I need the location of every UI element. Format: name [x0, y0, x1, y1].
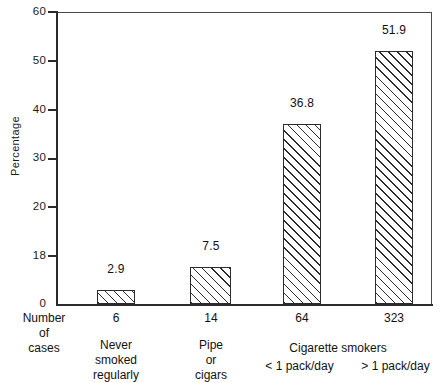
case-count-4: 323	[364, 311, 424, 325]
y-tick-label-30: 30	[0, 151, 46, 163]
number-of-cases-line-2: of	[4, 326, 84, 341]
y-tick-label-20: 20	[0, 200, 46, 212]
y-tick-label-50: 50	[0, 54, 46, 66]
bar-more-than-1-pack	[375, 51, 413, 304]
x-axis-line	[56, 304, 433, 306]
category-label-1-line-3: regularly	[76, 368, 156, 383]
category-label-1-line-1: Never	[76, 338, 156, 353]
y-tick-label-60: 60	[0, 5, 46, 17]
y-tick-label-10: 18	[0, 249, 46, 261]
case-count-3: 64	[272, 311, 332, 325]
bar-value-label-3: 36.8	[272, 96, 332, 110]
number-of-cases-line-3: cases	[4, 341, 84, 356]
bar-never-smoked	[97, 290, 135, 304]
y-tick-label-0: 0	[0, 297, 46, 309]
group-label-cigarette-smokers: Cigarette smokers	[248, 341, 428, 355]
category-label-never-smoked: Never smoked regularly	[76, 338, 156, 383]
category-label-pipe-or-cigars: Pipe or cigars	[171, 338, 251, 383]
category-label-2-line-1: Pipe	[171, 338, 251, 353]
bar-less-than-1-pack	[283, 124, 321, 304]
bar-pipe-or-cigars	[190, 267, 231, 304]
y-axis-line	[56, 11, 58, 306]
category-label-2-line-3: cigars	[171, 368, 251, 383]
case-count-1: 6	[86, 311, 146, 325]
category-label-1-line-2: smoked	[76, 353, 156, 368]
bar-value-label-1: 2.9	[86, 262, 146, 276]
bar-value-label-4: 51.9	[364, 23, 424, 37]
case-count-2: 14	[181, 311, 241, 325]
number-of-cases-line-1: Number	[4, 311, 84, 326]
bar-value-label-2: 7.5	[181, 239, 241, 253]
category-label-2-line-2: or	[171, 353, 251, 368]
y-tick-label-40: 40	[0, 103, 46, 115]
subcategory-label-more-than-1-pack: > 1 pack/day	[338, 359, 441, 373]
number-of-cases-row-label: Number of cases	[4, 311, 84, 356]
